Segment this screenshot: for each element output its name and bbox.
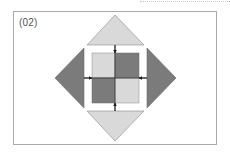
cell-top-left (92, 53, 115, 78)
right-triangle (147, 48, 176, 108)
cell-top-right (115, 53, 139, 78)
left-triangle (55, 48, 84, 108)
cell-bottom-left (92, 78, 115, 103)
cell-bottom-right (115, 78, 139, 103)
bottom-triangle (87, 111, 144, 141)
square-triangle-diagram (0, 0, 230, 153)
top-triangle (87, 15, 144, 45)
